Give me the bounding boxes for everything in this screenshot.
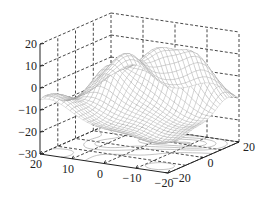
contour-segment xyxy=(223,146,225,147)
z-tick-label: −10 xyxy=(18,103,37,117)
z-tick xyxy=(40,44,44,45)
contour-segment xyxy=(113,133,114,134)
contour-segment xyxy=(227,142,228,143)
contour-segment xyxy=(91,149,94,150)
contour-segment xyxy=(178,143,181,144)
contour-segment xyxy=(212,141,214,142)
contour-segment xyxy=(70,155,72,156)
contour-segment xyxy=(95,143,96,144)
contour-segment xyxy=(98,155,101,156)
x-tick-label: −10 xyxy=(123,171,142,185)
contour-segment xyxy=(102,140,104,141)
contour-segment xyxy=(92,138,94,139)
contour-segment xyxy=(89,157,91,158)
contour-segment xyxy=(68,155,70,156)
contour-segment xyxy=(146,144,149,145)
contour-segment xyxy=(148,163,151,164)
contour-segment xyxy=(145,165,146,166)
contour-segment xyxy=(99,136,101,137)
contour-segment xyxy=(138,140,139,141)
contour-segment xyxy=(172,164,173,165)
contour-segment xyxy=(111,131,112,132)
y-tick xyxy=(165,173,168,174)
contour-segment xyxy=(118,136,119,137)
contour-segment xyxy=(214,145,215,146)
contour-segment xyxy=(212,146,214,147)
contour-segment xyxy=(173,167,174,168)
contour-segment xyxy=(101,133,102,134)
contour-segment xyxy=(172,168,174,169)
y-tick-label: 0 xyxy=(208,156,214,170)
contour-segment xyxy=(99,129,100,130)
contour-segment xyxy=(204,144,206,145)
z-tick-label: 0 xyxy=(31,81,37,95)
x-tick-label: 10 xyxy=(62,162,74,176)
contour-segment xyxy=(206,143,207,144)
contour-segment xyxy=(202,145,205,146)
y-tick-label: −20 xyxy=(172,171,191,185)
contour-segment xyxy=(187,142,190,143)
contour-segment xyxy=(84,143,85,144)
contour-segment xyxy=(85,142,86,143)
contour-segment xyxy=(95,145,97,146)
z-tick xyxy=(40,88,44,89)
contour-segment xyxy=(226,144,227,145)
contour-segment xyxy=(86,160,87,161)
contour-segment xyxy=(99,140,101,141)
x-tick-label: 0 xyxy=(97,167,103,181)
contour-segment xyxy=(90,139,92,140)
contour-segment xyxy=(100,147,103,148)
contour-segment xyxy=(173,164,174,165)
contour-segment xyxy=(205,142,206,143)
contour-segment xyxy=(73,153,74,154)
contour-segment xyxy=(70,150,72,151)
x-tick-label: −20 xyxy=(155,176,174,190)
contour-segment xyxy=(93,156,95,157)
contour-segment xyxy=(199,141,202,142)
contour-segment xyxy=(210,146,212,147)
contour-segment xyxy=(88,148,91,149)
contour-segment xyxy=(86,141,87,142)
contour-segment xyxy=(67,150,70,151)
contour-segment xyxy=(225,145,226,146)
contour-segment xyxy=(138,141,139,142)
contour-segment xyxy=(91,157,93,158)
z-tick xyxy=(40,132,44,133)
x-tick-label: 20 xyxy=(30,157,42,171)
contour-segment xyxy=(147,167,149,168)
contour-segment xyxy=(88,140,90,141)
contour-segment xyxy=(97,137,99,138)
contour-segment xyxy=(113,133,115,134)
z-tick xyxy=(40,110,44,111)
contour-segment xyxy=(214,142,216,143)
contour-segment xyxy=(206,139,209,140)
grid-line-z xyxy=(111,13,239,32)
contour-segment xyxy=(215,148,218,149)
contour-segment xyxy=(143,143,146,144)
contour-segment xyxy=(99,131,100,132)
contour-segment xyxy=(96,142,97,143)
contour-segment xyxy=(101,135,102,136)
contour-segment xyxy=(169,163,172,164)
contour-segment xyxy=(219,148,222,149)
contour-segment xyxy=(139,142,140,143)
contour-segment xyxy=(72,154,73,155)
z-tick-label: −20 xyxy=(18,125,37,139)
contour-segment xyxy=(73,151,74,152)
contour-segment xyxy=(73,152,74,153)
contour-segment xyxy=(65,156,68,157)
contour-segment xyxy=(206,147,209,148)
contour-segment xyxy=(146,167,147,168)
surface-mesh xyxy=(40,48,239,144)
contour-segment xyxy=(225,141,227,142)
contour-segment xyxy=(149,168,152,169)
z-tick-label: 20 xyxy=(25,37,37,51)
contour-segment xyxy=(95,138,97,139)
contour-segment xyxy=(84,146,85,147)
contour-segment xyxy=(209,140,212,141)
contour-segment xyxy=(215,144,216,145)
z-tick xyxy=(40,66,44,67)
contour-segment xyxy=(86,159,87,160)
contour-segment xyxy=(98,146,100,147)
contour-segment xyxy=(202,141,205,142)
